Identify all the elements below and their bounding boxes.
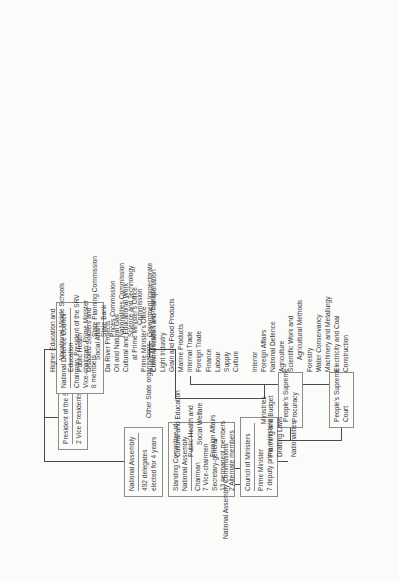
ministry-item: Agricultural Methods (295, 297, 304, 373)
assembly-commission-item: Cultural and Education (173, 390, 182, 457)
ministry-item: Education (66, 283, 75, 372)
ministry-item: Grain and Food Products (167, 269, 176, 372)
connector-president-horizontal (44, 349, 45, 462)
label-assembly-commissions: National Assembly Commissions (222, 443, 231, 539)
ministry-item: Culture (231, 269, 240, 372)
ministry-item: Agriculture (277, 297, 286, 373)
node-supreme-court[interactable]: People's Supreme Court (329, 372, 354, 428)
assembly-commission-item: Nationalities (289, 396, 298, 457)
ministry-item: Labour (213, 269, 222, 372)
national-assembly-title: National Assembly (128, 433, 139, 491)
list-assembly-commissions-b: Cultural and Education Public Health and… (173, 390, 217, 457)
president-title: President of the SRV (62, 391, 73, 444)
ministry-item: Supply (222, 269, 231, 372)
ministry-item: Foreign Trade (194, 269, 203, 372)
ministry-item: Machinery and Metallurgy (323, 297, 332, 373)
assembly-commission-item: Planning and Budget (266, 396, 275, 457)
list-assembly-commissions-a: Planning and Budget Drafting Laws Nation… (266, 396, 298, 457)
ministry-item: Public Health (75, 283, 84, 372)
ministry-item: Higher Education and (48, 283, 57, 372)
diagram-page: President of the SRV 2 Vice Presidents N… (0, 0, 399, 581)
other-org-item: Prices Commission (108, 256, 117, 337)
supreme-court-line-1: Court (342, 378, 351, 422)
other-org-item: State Planning Commission (90, 256, 99, 337)
assembly-commission-item: Social Welfare (195, 390, 204, 457)
ministry-item: Water Conservancy (314, 297, 323, 373)
other-org-item: Government Inspectorate (145, 256, 154, 337)
connector-president-stub (44, 417, 58, 418)
other-org-item: Commission (135, 256, 144, 337)
ministry-item: Interior (250, 297, 259, 373)
connector-court-stub (341, 428, 342, 441)
node-president[interactable]: President of the SRV 2 Vice Presidents (58, 385, 88, 450)
ministry-item: Marine Products (176, 269, 185, 372)
president-line-1: 2 Vice Presidents (75, 391, 84, 444)
ministries-tick-top (190, 376, 191, 385)
list-ministries-col1: Interior Foreign Affairs National Defenc… (250, 297, 350, 373)
connector-assembly-to-president-vertical (44, 461, 124, 462)
ministry-item: Forestry (305, 297, 314, 373)
diagram-canvas: President of the SRV 2 Vice Presidents N… (0, 0, 399, 581)
ministry-item: Vocational Middle Schools (57, 283, 66, 372)
ministry-item: Electricity and Coal (332, 297, 341, 373)
supreme-court-title: People's Supreme (333, 378, 342, 422)
other-org-item: Science and Technology (126, 256, 135, 337)
ministry-item: Foreign Affairs (259, 297, 268, 373)
national-assembly-line-1: 492 delegates (141, 433, 150, 491)
ministry-item: Internal Trade (185, 269, 194, 372)
list-ministries-col2: Communication and Transportation Light I… (149, 269, 240, 372)
assembly-commission-item: Public Health and (186, 390, 195, 457)
ministry-item: Finance (204, 269, 213, 372)
ministry-item: Light Industry (158, 269, 167, 372)
list-other-state-organisations: State Planning Commission State Bank Pri… (90, 256, 154, 337)
ministry-item: Scientific Work and (286, 297, 295, 373)
council-of-ministers-title: Council of Ministers (244, 423, 255, 491)
other-org-item: State Bank (99, 256, 108, 337)
assembly-commission-item: Foreign Affairs (208, 390, 217, 457)
ministry-item: Construction (341, 297, 350, 373)
ministry-item: National Defence (268, 297, 277, 373)
national-assembly-line-2: elected for 4 years (150, 433, 159, 491)
council-of-ministers-line-1: Prime Minister (257, 423, 266, 491)
other-org-item: Nationalities Commission (117, 256, 126, 337)
assembly-commission-item: Drafting Laws (275, 396, 284, 457)
node-national-assembly[interactable]: National Assembly 492 delegates elected … (124, 427, 163, 497)
